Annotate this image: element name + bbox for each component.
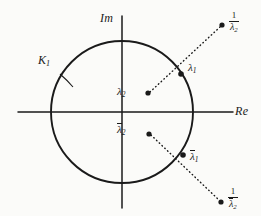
fraction-numerator: 1 <box>229 11 239 20</box>
fraction-denominator: λ2 <box>229 22 239 34</box>
label-lambda-2-conjugate: λ2 <box>117 123 126 137</box>
imaginary-axis-label: Im <box>100 12 113 24</box>
point-one-over-lambda-2-conjugate <box>218 199 223 204</box>
label-lambda-2-subscript: 2 <box>122 90 126 99</box>
circle-label-subscript: 1 <box>46 59 50 68</box>
label-lambda-1: λ1 <box>188 62 197 75</box>
point-lambda-2 <box>145 90 150 95</box>
label-lambda-1-conjugate: λ1 <box>190 150 199 164</box>
circle-label-base: K <box>38 53 46 67</box>
k1-leader-line <box>60 74 73 87</box>
point-lambda-1 <box>178 71 184 77</box>
label-one-over-lambda-2-conjugate: 1 λ2 <box>228 188 238 212</box>
circle-label-k1: K1 <box>38 54 50 68</box>
label-lambda-2-conjugate-subscript: 2 <box>122 128 126 137</box>
denominator-subscript: 2 <box>233 203 236 210</box>
real-axis-label: Re <box>235 105 248 117</box>
point-lambda-1-conjugate <box>180 152 186 158</box>
point-lambda-2-conjugate <box>146 131 151 136</box>
denominator-subscript: 2 <box>234 26 237 33</box>
fraction-denominator: λ2 <box>228 198 238 211</box>
label-one-over-lambda-2: 1 λ2 <box>229 12 239 35</box>
point-one-over-lambda-2 <box>219 22 224 27</box>
label-lambda-2: λ2 <box>117 86 126 99</box>
fraction-one-over-lambda-2: 1 λ2 <box>229 11 239 34</box>
upper-dotted-ray <box>150 27 220 92</box>
label-lambda-1-subscript: 1 <box>193 66 197 75</box>
complex-plane-figure: Im Re K1 λ2 λ1 1 λ2 λ2 λ1 1 λ2 <box>0 0 261 216</box>
fraction-one-over-lambda-2-conjugate: 1 λ2 <box>228 187 238 211</box>
figure-canvas <box>0 0 261 216</box>
label-lambda-1-conjugate-subscript: 1 <box>195 155 199 164</box>
fraction-numerator: 1 <box>228 187 238 196</box>
